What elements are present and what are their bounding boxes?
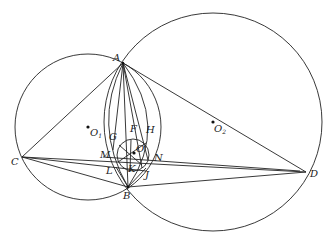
label-f: F [129,123,138,134]
label-o1: O1 [90,127,102,139]
label-g: G [109,131,117,142]
label-k: K [127,163,136,174]
a-dot [122,62,124,64]
label-c: C [11,156,19,167]
label-b: B [122,190,130,201]
line-ac [22,63,123,157]
line-ad [123,63,306,172]
label-h: H [145,124,155,135]
label-a: A [112,52,120,63]
line-cd [22,157,306,172]
label-l: L [105,165,113,176]
label-m: M [99,149,111,160]
diagram-svg: A B C D O1 O2 O F G H M N L K J [0,0,335,246]
b-dot [127,186,130,189]
label-j: J [143,169,150,180]
line-bd [128,172,306,187]
label-n: N [153,152,164,163]
label-o: O [136,143,144,154]
geometry-diagram: A B C D O1 O2 O F G H M N L K J [0,0,335,246]
label-d: D [309,168,318,179]
label-o2: O2 [214,123,226,135]
